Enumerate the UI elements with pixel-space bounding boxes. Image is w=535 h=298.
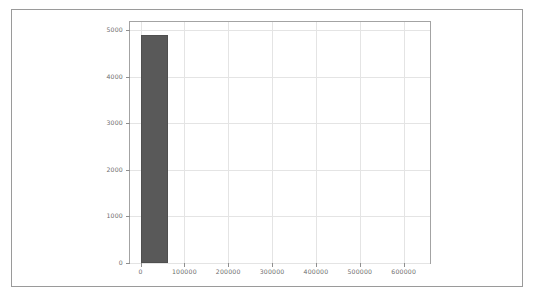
gridline-horizontal bbox=[130, 30, 430, 31]
y-axis-tick-label: 0 bbox=[119, 260, 123, 266]
gridline-horizontal bbox=[130, 77, 430, 78]
gridline-vertical bbox=[404, 22, 405, 263]
x-axis-tick-label: 500000 bbox=[347, 269, 372, 275]
figure-canvas: 010002000300040005000 010000020000030000… bbox=[11, 9, 523, 287]
y-axis-tick bbox=[126, 216, 130, 217]
x-axis-tick bbox=[316, 263, 317, 267]
x-axis-tick bbox=[272, 263, 273, 267]
gridline-vertical bbox=[184, 22, 185, 263]
x-axis-tick-label: 0 bbox=[138, 269, 142, 275]
gridline-horizontal bbox=[130, 216, 430, 217]
y-axis-tick bbox=[126, 263, 130, 264]
x-axis-tick bbox=[184, 263, 185, 267]
y-axis-tick-label: 5000 bbox=[106, 27, 123, 33]
x-axis-tick-label: 600000 bbox=[391, 269, 416, 275]
y-axis-tick bbox=[126, 77, 130, 78]
y-axis-tick-label: 4000 bbox=[106, 74, 123, 80]
y-axis-tick bbox=[126, 170, 130, 171]
x-axis-tick-label: 100000 bbox=[172, 269, 197, 275]
x-axis-tick bbox=[141, 263, 142, 267]
gridline-vertical bbox=[228, 22, 229, 263]
x-axis-tick bbox=[404, 263, 405, 267]
gridline-vertical bbox=[316, 22, 317, 263]
y-axis-tick-label: 1000 bbox=[106, 213, 123, 219]
x-axis-tick-label: 200000 bbox=[216, 269, 241, 275]
x-axis-tick bbox=[228, 263, 229, 267]
gridline-horizontal bbox=[130, 263, 430, 264]
gridline-vertical bbox=[272, 22, 273, 263]
x-axis-tick bbox=[360, 263, 361, 267]
y-axis-tick bbox=[126, 30, 130, 31]
y-axis-tick-label: 2000 bbox=[106, 167, 123, 173]
y-axis-tick-label: 3000 bbox=[106, 120, 123, 126]
y-axis-tick bbox=[126, 123, 130, 124]
gridline-vertical bbox=[360, 22, 361, 263]
x-axis-tick-label: 400000 bbox=[304, 269, 329, 275]
x-axis-tick-label: 300000 bbox=[260, 269, 285, 275]
histogram-bar bbox=[141, 35, 168, 263]
plot-area: 010002000300040005000 010000020000030000… bbox=[129, 21, 431, 264]
gridline-horizontal bbox=[130, 123, 430, 124]
gridline-horizontal bbox=[130, 170, 430, 171]
